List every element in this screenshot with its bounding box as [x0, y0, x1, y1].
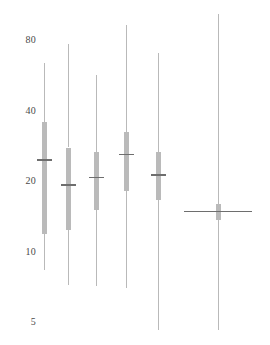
- median-line: [89, 177, 104, 178]
- box-iqr: [42, 122, 47, 233]
- median-line: [37, 159, 52, 160]
- box-iqr: [124, 132, 129, 191]
- whisker-upper: [218, 14, 219, 203]
- whisker-upper: [68, 44, 69, 148]
- plot-area: [0, 0, 270, 345]
- whisker-lower: [96, 210, 97, 287]
- whisker-upper: [44, 63, 45, 122]
- whisker-lower: [126, 191, 127, 288]
- box-plot-chart: 804020105: [0, 0, 270, 345]
- whisker-lower: [44, 234, 45, 271]
- whisker-upper: [96, 75, 97, 152]
- median-line: [184, 211, 252, 212]
- whisker-upper: [158, 53, 159, 152]
- median-line: [151, 174, 166, 175]
- box-iqr: [156, 152, 161, 200]
- box-iqr: [66, 148, 71, 230]
- box-iqr: [94, 152, 99, 210]
- whisker-lower: [68, 230, 69, 285]
- median-line: [61, 184, 76, 185]
- whisker-upper: [126, 25, 127, 132]
- median-line: [119, 154, 134, 155]
- whisker-lower: [158, 200, 159, 331]
- whisker-lower: [218, 220, 219, 330]
